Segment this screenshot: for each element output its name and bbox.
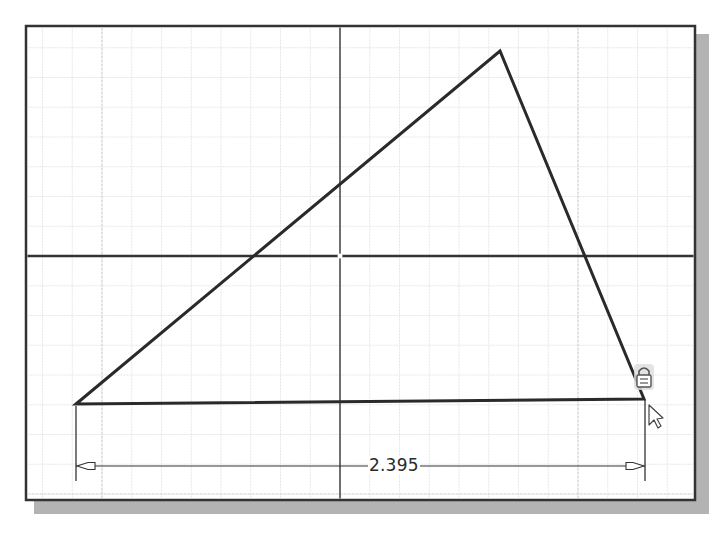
sketch-frame bbox=[26, 26, 695, 500]
sketch-canvas[interactable] bbox=[0, 0, 725, 540]
dimension-value-label[interactable]: 2.395 bbox=[368, 456, 420, 474]
lock-icon bbox=[634, 364, 654, 390]
